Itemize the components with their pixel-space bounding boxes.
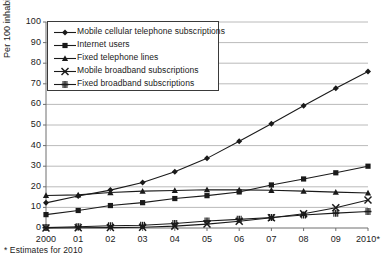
x-tick-label: 05 (191, 235, 223, 244)
y-tick-label: 60 (16, 99, 41, 108)
y-tick-label: 10 (16, 202, 41, 211)
y-tick-label: 30 (16, 161, 41, 170)
y-tick-label: 90 (16, 38, 41, 47)
legend-item-label: Mobile broadband subscriptions (77, 66, 199, 75)
y-tick-label: 40 (16, 141, 41, 150)
x-tick-label: 02 (94, 235, 126, 244)
x-tick-label: 04 (159, 235, 191, 244)
legend-item-label: Fixed broadband subscriptions (77, 79, 194, 88)
chart-footnote: * Estimates for 2010 (4, 245, 83, 255)
x-tick-label: 07 (255, 235, 287, 244)
x-tick-label: 2000 (30, 235, 62, 244)
y-tick-label: 70 (16, 79, 41, 88)
y-tick-label: 50 (16, 120, 41, 129)
legend-item: Fixed telephone lines (48, 51, 218, 64)
x-tick-label: 09 (320, 235, 352, 244)
legend-item-label: Mobile cellular telephone subscriptions (77, 27, 225, 36)
chart-legend: Mobile cellular telephone subscriptionsI… (47, 21, 219, 91)
y-tick-label: 20 (16, 182, 41, 191)
x-tick-label: 01 (62, 235, 94, 244)
x-tick-label: 06 (223, 235, 255, 244)
plus-box-marker-icon (53, 77, 77, 90)
y-tick-label: 0 (16, 223, 41, 232)
legend-item: Mobile cellular telephone subscriptions (48, 25, 218, 38)
square-marker-icon (53, 38, 77, 51)
legend-item: Fixed broadband subscriptions (48, 77, 218, 90)
legend-item: Internet users (48, 38, 218, 51)
y-tick-label: 100 (16, 17, 41, 26)
x-tick-label: 03 (127, 235, 159, 244)
y-tick-label: 80 (16, 58, 41, 67)
x-tick-label: 08 (288, 235, 320, 244)
diamond-marker-icon (53, 25, 77, 38)
legend-item-label: Internet users (77, 40, 130, 49)
x-tick-label: 2010* (352, 235, 384, 244)
x-marker-icon (53, 64, 77, 77)
legend-item: Mobile broadband subscriptions (48, 64, 218, 77)
legend-item-label: Fixed telephone lines (77, 53, 158, 62)
triangle-marker-icon (53, 51, 77, 64)
